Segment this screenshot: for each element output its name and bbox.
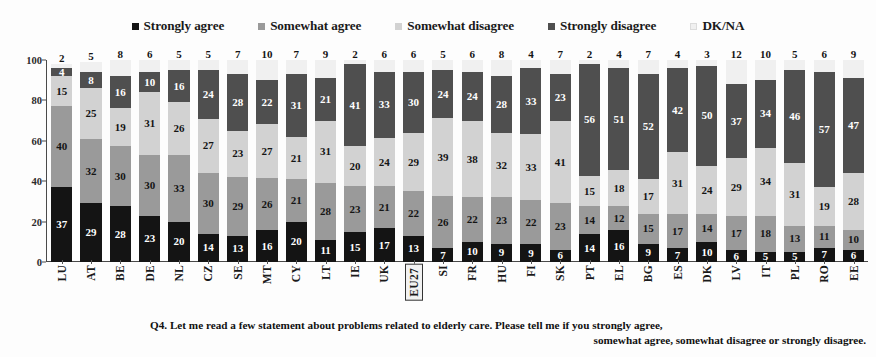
bar-segment[interactable]: 21 xyxy=(286,137,307,179)
bar-segment[interactable]: 30 xyxy=(139,155,160,216)
bar-segment[interactable]: 28 xyxy=(110,206,131,262)
bar-column[interactable]: 24154037 xyxy=(47,60,76,262)
stacked-bar[interactable]: 816193028 xyxy=(110,60,131,262)
bar-segment[interactable]: 13 xyxy=(784,226,805,252)
stacked-bar[interactable]: 451181216 xyxy=(608,60,629,262)
bar-segment[interactable]: 21 xyxy=(286,179,307,221)
bar-segment[interactable]: 37 xyxy=(726,84,747,158)
bar-segment[interactable]: 33 xyxy=(520,68,541,134)
bar-segment[interactable]: 31 xyxy=(315,121,336,184)
bar-segment[interactable]: 8 xyxy=(491,60,512,76)
stacked-bar[interactable]: 516263320 xyxy=(168,60,189,262)
bar-column[interactable]: 82832239 xyxy=(487,60,516,262)
bar-segment[interactable]: 14 xyxy=(579,234,600,262)
bar-segment[interactable]: 24 xyxy=(462,72,483,120)
bar-segment[interactable]: 11 xyxy=(814,226,835,248)
bar-segment[interactable]: 41 xyxy=(550,121,571,204)
bar-segment[interactable]: 6 xyxy=(403,60,424,72)
bar-segment[interactable]: 16 xyxy=(608,230,629,262)
bar-segment[interactable]: 19 xyxy=(814,187,835,225)
stacked-bar[interactable]: 1022272616 xyxy=(256,60,277,262)
stacked-bar[interactable]: 43333229 xyxy=(520,60,541,262)
bar-segment[interactable]: 4 xyxy=(608,60,629,68)
bar-segment[interactable]: 29 xyxy=(726,158,747,216)
bar-segment[interactable]: 5 xyxy=(784,252,805,262)
bar-segment[interactable]: 46 xyxy=(784,70,805,163)
bar-segment[interactable]: 7 xyxy=(227,60,248,74)
bar-segment[interactable]: 22 xyxy=(403,191,424,235)
stacked-bar[interactable]: 350241410 xyxy=(696,60,717,262)
bar-segment[interactable]: 5 xyxy=(755,252,776,262)
bar-segment[interactable]: 6 xyxy=(462,60,483,72)
bar-segment[interactable]: 23 xyxy=(139,216,160,262)
stacked-bar[interactable]: 610313023 xyxy=(139,60,160,262)
bar-segment[interactable]: 5 xyxy=(168,60,189,70)
bar-segment[interactable]: 22 xyxy=(462,197,483,241)
stacked-bar[interactable]: 54631135 xyxy=(784,60,805,262)
bar-segment[interactable]: 16 xyxy=(168,70,189,102)
bar-column[interactable]: 728232913 xyxy=(223,60,252,262)
bar-segment[interactable]: 22 xyxy=(520,200,541,244)
bar-segment[interactable]: 24 xyxy=(374,138,395,186)
stacked-bar[interactable]: 44231177 xyxy=(667,60,688,262)
bar-segment[interactable]: 7 xyxy=(814,248,835,262)
bar-segment[interactable]: 47 xyxy=(843,78,864,173)
bar-column[interactable]: 72341236 xyxy=(546,60,575,262)
bar-segment[interactable]: 7 xyxy=(667,248,688,262)
bar-segment[interactable]: 6 xyxy=(843,250,864,262)
bar-segment[interactable]: 23 xyxy=(227,131,248,177)
bar-column[interactable]: 75217159 xyxy=(634,60,663,262)
bar-segment[interactable]: 4 xyxy=(51,68,72,76)
bar-segment[interactable]: 33 xyxy=(374,72,395,138)
bar-segment[interactable]: 7 xyxy=(286,60,307,74)
bar-segment[interactable]: 13 xyxy=(403,236,424,262)
bar-segment[interactable]: 28 xyxy=(491,76,512,133)
stacked-bar[interactable]: 630292213 xyxy=(403,60,424,262)
bar-segment[interactable]: 26 xyxy=(256,178,277,230)
bar-segment[interactable]: 28 xyxy=(843,173,864,230)
bar-segment[interactable]: 29 xyxy=(227,177,248,236)
stacked-bar[interactable]: 65719117 xyxy=(814,60,835,262)
bar-segment[interactable]: 11 xyxy=(315,240,336,262)
bar-column[interactable]: 624382210 xyxy=(458,60,487,262)
bar-segment[interactable]: 7 xyxy=(432,248,453,262)
bar-segment[interactable]: 22 xyxy=(256,80,277,124)
bar-segment[interactable]: 20 xyxy=(286,222,307,262)
bar-segment[interactable]: 4 xyxy=(667,60,688,68)
bar-segment[interactable]: 33 xyxy=(520,134,541,200)
bar-segment[interactable]: 17 xyxy=(374,228,395,262)
bar-segment[interactable]: 23 xyxy=(344,186,365,232)
bar-segment[interactable]: 9 xyxy=(315,60,336,78)
bar-segment[interactable]: 21 xyxy=(374,186,395,228)
bar-segment[interactable]: 37 xyxy=(51,187,72,262)
bar-column[interactable]: 241202315 xyxy=(340,60,369,262)
bar-column[interactable]: 44231177 xyxy=(663,60,692,262)
bar-segment[interactable]: 15 xyxy=(579,176,600,206)
bar-segment[interactable]: 31 xyxy=(286,74,307,137)
bar-segment[interactable]: 30 xyxy=(198,173,219,234)
bar-segment[interactable]: 18 xyxy=(755,216,776,252)
bar-column[interactable]: 451181216 xyxy=(604,60,633,262)
bar-segment[interactable]: 32 xyxy=(491,133,512,198)
stacked-bar[interactable]: 728232913 xyxy=(227,60,248,262)
bar-segment[interactable]: 52 xyxy=(638,74,659,179)
bar-segment[interactable]: 25 xyxy=(80,88,101,139)
bar-segment[interactable]: 24 xyxy=(696,166,717,214)
bar-segment[interactable]: 27 xyxy=(256,124,277,178)
bar-segment[interactable]: 21 xyxy=(315,78,336,120)
bar-segment[interactable]: 12 xyxy=(726,60,747,84)
bar-segment[interactable]: 5 xyxy=(80,62,101,72)
bar-segment[interactable]: 6 xyxy=(550,250,571,262)
bar-segment[interactable]: 9 xyxy=(843,60,864,78)
stacked-bar[interactable]: 82832239 xyxy=(491,60,512,262)
bar-segment[interactable]: 14 xyxy=(579,206,600,234)
bar-segment[interactable]: 31 xyxy=(139,92,160,155)
bar-column[interactable]: 731212120 xyxy=(282,60,311,262)
bar-segment[interactable]: 28 xyxy=(227,74,248,131)
bar-segment[interactable]: 18 xyxy=(608,170,629,206)
bar-segment[interactable]: 34 xyxy=(755,148,776,216)
bar-segment[interactable]: 24 xyxy=(198,70,219,118)
bar-column[interactable]: 1022272616 xyxy=(252,60,281,262)
bar-segment[interactable]: 38 xyxy=(462,121,483,198)
bar-segment[interactable]: 20 xyxy=(168,222,189,262)
